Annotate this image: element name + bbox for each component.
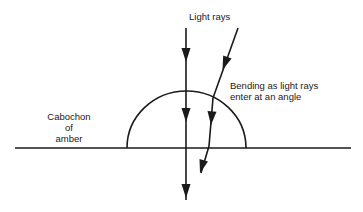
bending-annotation-line1: Bending as light rays	[230, 80, 318, 91]
arrowhead-icon	[208, 111, 217, 125]
arrowhead-icon	[223, 55, 232, 70]
cabochon-label-line3: amber	[44, 133, 94, 144]
cabochon-label-line1: Cabochon	[44, 111, 94, 122]
bending-annotation: Bending as light rays enter at an angle	[230, 80, 318, 102]
arrowhead-icon	[182, 48, 191, 62]
arrowhead-icon	[200, 159, 209, 173]
diagram-canvas	[0, 0, 363, 212]
arrowhead-icon	[182, 184, 191, 198]
arrowhead-icon	[182, 108, 191, 122]
cabochon-label: Cabochon of amber	[44, 111, 94, 144]
cabochon-label-line2: of	[44, 122, 94, 133]
bending-annotation-line2: enter at an angle	[230, 91, 318, 102]
light-rays-label: Light rays	[189, 11, 230, 22]
